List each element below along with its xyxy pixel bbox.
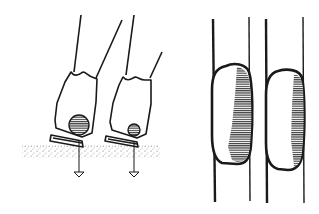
ground-surface — [22, 146, 160, 158]
illustration-canvas — [0, 0, 319, 214]
down-arrow-icon — [74, 172, 84, 177]
cross-section-2 — [266, 17, 304, 203]
large-ball — [69, 115, 89, 135]
illustration-svg — [0, 0, 319, 214]
cross-section-1 — [212, 17, 252, 202]
down-arrow-icon — [129, 172, 139, 177]
small-ball — [128, 124, 140, 136]
